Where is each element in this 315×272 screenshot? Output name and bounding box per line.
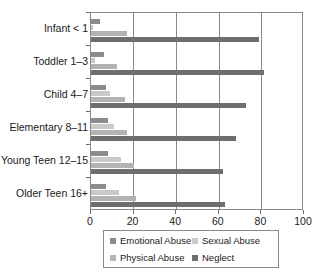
bar-emotional [91,151,108,156]
bar-chart: Infant < 1Toddler 1–3Child 4–7Elementary… [0,0,315,272]
bar-group [91,145,302,178]
legend-swatch-icon-neglect [192,255,198,261]
legend-label-neglect: Neglect [202,253,234,263]
legend-label-physical-abuse: Physical Abuse [120,253,184,263]
y-axis-label: Infant < 1 [44,23,88,34]
bar-sexual [91,124,114,129]
y-axis-label: Toddler 1–3 [33,56,88,67]
legend-item-physical-abuse[interactable]: Physical Abuse [110,253,192,263]
y-axis-label: Child 4–7 [44,89,88,100]
bar-physical [91,163,134,168]
plot-area [90,12,303,210]
x-axis-label: 0 [87,215,93,227]
bar-group [91,112,302,145]
bar-sexual [91,190,119,195]
legend-swatch-icon-sexual-abuse [192,238,198,244]
legend-swatch-icon-physical-abuse [110,255,116,261]
x-axis-label: 80 [255,215,267,227]
bar-neglect [91,136,236,141]
y-axis-label: Young Teen 12–15 [1,155,88,166]
x-tick [303,210,304,214]
bar-sexual [91,157,121,162]
bar-group [91,46,302,79]
bar-physical [91,97,125,102]
legend-swatch-icon-emotional-abuse [110,238,116,244]
bar-neglect [91,70,264,75]
y-tick [86,45,90,46]
x-axis-label: 40 [169,215,181,227]
legend-item-neglect[interactable]: Neglect [192,253,274,263]
bar-emotional [91,184,106,189]
bar-emotional [91,52,104,57]
bar-group [91,13,302,46]
bar-group [91,178,302,211]
legend: Emotional Abuse Sexual Abuse Physical Ab… [103,230,279,268]
y-axis-label: Elementary 8–11 [9,122,88,133]
bar-physical [91,64,117,69]
bar-sexual [91,25,93,30]
legend-label-sexual-abuse: Sexual Abuse [202,236,260,246]
bar-emotional [91,85,106,90]
x-tick [218,210,219,214]
bar-physical [91,196,136,201]
y-tick [86,144,90,145]
y-tick [86,177,90,178]
x-tick [175,210,176,214]
legend-item-emotional-abuse[interactable]: Emotional Abuse [110,236,192,246]
bar-sexual [91,91,110,96]
bar-neglect [91,169,223,174]
x-tick [90,210,91,214]
x-axis-label: 20 [127,215,139,227]
legend-label-emotional-abuse: Emotional Abuse [120,236,191,246]
x-axis-label: 60 [212,215,224,227]
y-tick [86,111,90,112]
bar-emotional [91,19,100,24]
x-tick [260,210,261,214]
bar-physical [91,31,127,36]
y-tick [86,12,90,13]
bar-sexual [91,58,95,63]
bar-neglect [91,202,225,207]
x-tick [133,210,134,214]
y-axis-label: Older Teen 16+ [16,188,88,199]
bar-emotional [91,118,108,123]
bar-physical [91,130,127,135]
x-axis-label: 100 [294,215,312,227]
bar-neglect [91,37,259,42]
bar-group [91,79,302,112]
legend-item-sexual-abuse[interactable]: Sexual Abuse [192,236,274,246]
bar-neglect [91,103,246,108]
y-tick [86,78,90,79]
